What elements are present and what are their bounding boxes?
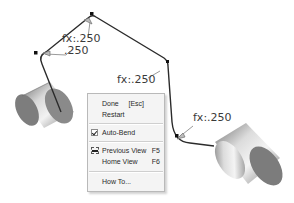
menu-separator bbox=[89, 141, 163, 143]
right-cylinder[interactable] bbox=[209, 123, 290, 191]
previous-view-icon bbox=[91, 147, 99, 154]
dimension-label[interactable]: .250 bbox=[64, 45, 89, 56]
checkbox-checked-icon bbox=[91, 129, 98, 136]
menu-item-label: Home View bbox=[102, 156, 138, 167]
vertex-point-right[interactable] bbox=[166, 60, 169, 63]
menu-item-shortcut: F5 bbox=[152, 145, 160, 156]
menu-separator bbox=[89, 171, 163, 173]
menu-item-how-to[interactable]: How To... bbox=[88, 176, 164, 187]
menu-item-shortcut: [Esc] bbox=[128, 98, 144, 109]
dimension-label[interactable]: fx:.250 bbox=[193, 112, 232, 123]
menu-item-label: Restart bbox=[102, 109, 125, 120]
menu-item-shortcut: F6 bbox=[152, 156, 160, 167]
context-menu: Done [Esc] Restart Auto-Bend Previous Vi… bbox=[87, 93, 165, 192]
menu-item-label: How To... bbox=[102, 176, 131, 187]
dimension-label[interactable]: fx:.250 bbox=[62, 33, 101, 44]
vertex-point-left[interactable] bbox=[34, 51, 38, 55]
menu-item-restart[interactable]: Restart bbox=[88, 109, 164, 120]
vertex-point-lower-right[interactable] bbox=[175, 134, 179, 138]
menu-item-label: Previous View bbox=[102, 145, 146, 156]
menu-separator bbox=[89, 123, 163, 125]
menu-item-previous-view[interactable]: Previous View F5 bbox=[88, 145, 164, 156]
menu-item-home-view[interactable]: Home View F6 bbox=[88, 156, 164, 167]
menu-item-label: Auto-Bend bbox=[102, 127, 135, 138]
dimension-label[interactable]: fx:.250 bbox=[117, 74, 156, 85]
menu-item-done[interactable]: Done [Esc] bbox=[88, 98, 164, 109]
left-cylinder[interactable] bbox=[10, 82, 79, 130]
vertex-point-top[interactable] bbox=[90, 12, 94, 16]
menu-item-label: Done bbox=[102, 98, 119, 109]
menu-item-auto-bend[interactable]: Auto-Bend bbox=[88, 127, 164, 138]
